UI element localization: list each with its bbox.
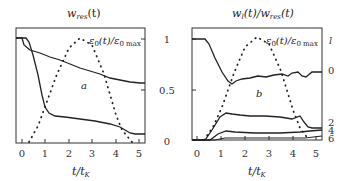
right-legend-text: ε0(t)/ε0 max — [266, 35, 318, 48]
svg-text:1: 1 — [42, 148, 48, 159]
svg-text:4: 4 — [113, 148, 119, 159]
svg-text:0: 0 — [328, 65, 334, 76]
svg-text:0: 0 — [194, 148, 200, 159]
svg-text:0.5: 0.5 — [159, 85, 175, 96]
svg-text:0: 0 — [19, 148, 25, 159]
svg-text:3: 3 — [89, 148, 95, 159]
right-panel: wl(t)/wres(t) ε0(t)/ε0 max b l 0 2 4 6 0… — [192, 7, 334, 179]
svg-text:3: 3 — [266, 148, 272, 159]
left-title: wres(t) — [67, 7, 101, 21]
left-x-tick-labels: 01 23 45 — [19, 148, 142, 159]
right-title: wl(t)/wres(t) — [232, 7, 294, 21]
svg-text:5: 5 — [313, 148, 319, 159]
right-x-tick-labels: 01 23 45 — [194, 148, 319, 159]
svg-text:5: 5 — [136, 148, 142, 159]
panel-label-a: a — [81, 80, 87, 91]
svg-text:6: 6 — [328, 133, 334, 144]
right-ticks — [192, 39, 316, 140]
right-curve-l2 — [192, 113, 322, 140]
left-legend-text: ε0(t)/ε0 max — [89, 35, 141, 48]
figure: wres(t) ε0(t)/ε0 max a 01 23 45 t/tK 1 0… — [0, 0, 349, 181]
svg-text:0: 0 — [164, 136, 170, 147]
svg-text:1: 1 — [218, 148, 224, 159]
svg-text:2: 2 — [242, 148, 248, 159]
y-axis-labels: 1 0.5 0 — [159, 34, 175, 147]
right-x-axis-label: t/tK — [248, 165, 267, 179]
svg-text:4: 4 — [290, 148, 296, 159]
left-x-axis-label: t/tK — [72, 165, 91, 179]
svg-text:1: 1 — [164, 34, 170, 45]
left-x-ticks — [22, 39, 145, 143]
svg-text:l: l — [329, 35, 332, 46]
right-curve-labels: l 0 2 4 6 — [328, 35, 334, 144]
panel-label-b: b — [256, 88, 262, 99]
svg-text:2: 2 — [66, 148, 72, 159]
left-panel: wres(t) ε0(t)/ε0 max a 01 23 45 t/tK — [16, 7, 145, 179]
